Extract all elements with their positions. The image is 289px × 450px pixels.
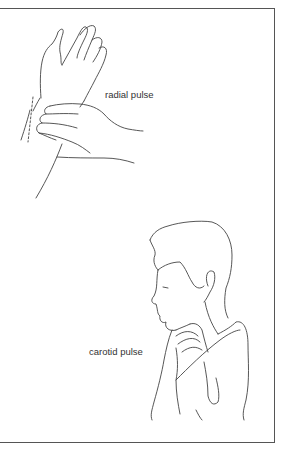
carotid-pulse-label: carotid pulse xyxy=(89,346,143,357)
radial-pulse-label: radial pulse xyxy=(105,89,154,100)
illustration-canvas xyxy=(0,0,289,450)
boy-body-illustration xyxy=(151,322,248,420)
pressing-hand-illustration xyxy=(36,104,143,198)
boy-head-illustration xyxy=(150,221,232,334)
